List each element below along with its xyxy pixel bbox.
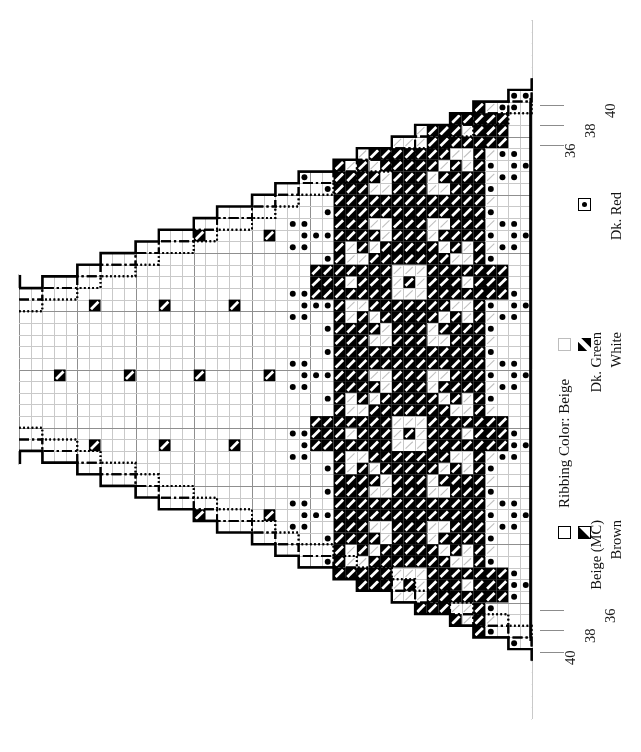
- size-tick-bottom-3: [540, 652, 564, 653]
- size-label-bottom-36: 36: [602, 609, 619, 624]
- size-label-top-38: 38: [582, 124, 599, 139]
- size-label-bottom-40: 40: [562, 651, 579, 666]
- legend-label-brown: Brown: [608, 520, 625, 559]
- dk-red-swatch-icon: [578, 198, 591, 211]
- legend-label-white: White: [608, 332, 625, 367]
- size-label-bottom-38: 38: [582, 629, 599, 644]
- legend-label-red: Dk. Red: [608, 192, 625, 240]
- size-tick-bottom-2: [540, 630, 564, 631]
- chart-grid-canvas: [0, 0, 641, 752]
- size-label-top-40: 40: [602, 104, 619, 119]
- size-tick-bottom-1: [540, 610, 564, 611]
- legend-column-3: Dk. Red: [556, 200, 584, 540]
- legend: Beige (MC) Brown Dk. Green White Dk. Red: [556, 200, 641, 540]
- knitting-chart-root: 40 38 36 36 38 40 Ribbing Color: Beige B…: [0, 0, 641, 752]
- legend-entry-red: Dk. Red: [556, 90, 584, 240]
